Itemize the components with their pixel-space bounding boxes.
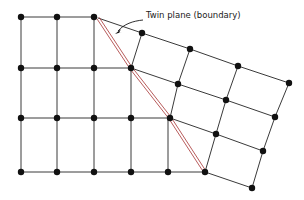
lattice-atom [260, 148, 266, 154]
lattice-bond [252, 151, 263, 188]
lattice-bond [131, 68, 178, 84]
lattice-atom [202, 169, 208, 175]
lattice-atom [54, 65, 60, 71]
lattice-bond [216, 134, 263, 151]
lattice-bond [275, 83, 289, 117]
lattice-atom [165, 169, 171, 175]
lattice-atom [235, 63, 241, 69]
lattice-atom [249, 185, 255, 191]
lattice-atom [223, 97, 229, 103]
lattice-atom [54, 115, 60, 121]
lattice-atom [128, 169, 134, 175]
lattice-atom [167, 115, 173, 121]
lattice-atom [175, 81, 181, 87]
twin-plane-diagram: Twin plane (boundary) [0, 0, 304, 200]
lattice-atom [18, 169, 24, 175]
twin-plane-line [99, 17, 206, 171]
lattice-atom [213, 131, 219, 137]
right-lattice-lines [98, 18, 289, 188]
twin-plane-lines [97, 17, 206, 172]
lattice-atom [272, 114, 278, 120]
twin-plane-label: Twin plane (boundary) [145, 10, 241, 20]
lattice-bond [238, 66, 289, 83]
right-lattice-atoms [139, 30, 292, 191]
leader-arrowhead [115, 29, 122, 34]
lattice-bond [205, 134, 216, 172]
lattice-atom [18, 115, 24, 121]
lattice-atom [139, 30, 145, 36]
lattice-bond [178, 49, 190, 84]
lattice-atom [91, 14, 97, 20]
lattice-atom [187, 46, 193, 52]
lattice-bond [170, 84, 178, 118]
lattice-bond [190, 49, 238, 66]
lattice-atom [128, 115, 134, 121]
lattice-bond [216, 100, 226, 134]
figure-canvas: Twin plane (boundary) [0, 0, 304, 200]
lattice-atom [91, 65, 97, 71]
lattice-bond [178, 84, 226, 100]
lattice-atom [18, 14, 24, 20]
lattice-bond [263, 117, 275, 151]
lattice-atom [128, 65, 134, 71]
lattice-atom [18, 65, 24, 71]
lattice-atom [91, 115, 97, 121]
lattice-atom [286, 80, 292, 86]
lattice-atom [54, 14, 60, 20]
left-lattice-lines [21, 17, 205, 172]
lattice-atom [54, 169, 60, 175]
lattice-bond [131, 33, 142, 68]
lattice-bond [226, 100, 275, 117]
lattice-bond [205, 172, 252, 188]
lattice-bond [226, 66, 238, 100]
twin-plane-line [97, 19, 204, 173]
lattice-atom [91, 169, 97, 175]
lattice-bond [142, 33, 190, 49]
